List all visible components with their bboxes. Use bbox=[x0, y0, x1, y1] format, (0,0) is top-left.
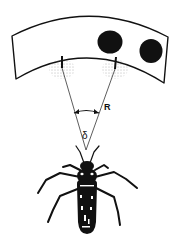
stimulus-dot-1 bbox=[98, 31, 123, 54]
stimulus-dot-2 bbox=[140, 39, 163, 63]
leg-front-right bbox=[95, 165, 108, 170]
rf-tick-right bbox=[115, 57, 116, 69]
insect-abdomen bbox=[77, 180, 97, 234]
leg-mid-right bbox=[95, 172, 137, 188]
leg-front-left bbox=[63, 165, 80, 170]
diagram-canvas: R δ bbox=[0, 0, 175, 248]
antenna-right bbox=[90, 146, 99, 163]
angle-label: δ bbox=[82, 130, 88, 141]
insect bbox=[38, 146, 137, 234]
leg-hind-right bbox=[96, 188, 120, 225]
antenna-left bbox=[76, 146, 84, 163]
sight-line-right bbox=[86, 69, 115, 150]
distance-label: R bbox=[104, 102, 111, 112]
leg-hind-left bbox=[48, 188, 80, 222]
